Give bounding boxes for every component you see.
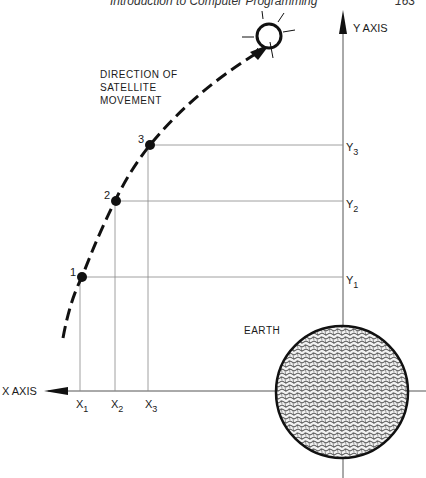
x-axis-label: X AXIS: [2, 385, 37, 397]
svg-text:MOVEMENT: MOVEMENT: [100, 95, 162, 106]
x-tick-labels: X1 X2 X3: [76, 398, 157, 414]
y3-label: Y3: [346, 141, 358, 157]
y1-label: Y1: [346, 274, 358, 290]
x2-label: X2: [111, 398, 123, 414]
point-3-label: 3: [138, 133, 144, 145]
y-tick-labels: Y3 Y2 Y1: [346, 141, 358, 290]
y-axis-arrow-icon: [339, 10, 347, 34]
earth-label: EARTH: [244, 325, 280, 336]
satellite-icon: [242, 11, 295, 58]
orbit-path: [63, 50, 262, 338]
point-2-label: 2: [104, 189, 110, 201]
y-axis-label: Y AXIS: [353, 22, 388, 34]
x1-label: X1: [76, 398, 88, 414]
y2-label: Y2: [346, 198, 358, 214]
svg-text:SATELLITE: SATELLITE: [100, 82, 157, 93]
point-1-label: 1: [70, 266, 76, 278]
satellite-orbit-diagram: Y AXIS X AXIS Y3 Y2 Y1 X1 X2 X3 1 2 3: [0, 0, 426, 478]
x-axis-arrow-icon: [44, 387, 68, 395]
direction-label: DIRECTION OF SATELLITE MOVEMENT: [100, 69, 178, 106]
position-2-dot: [111, 196, 121, 206]
position-3-dot: [145, 140, 155, 150]
position-1-dot: [77, 272, 87, 282]
svg-text:DIRECTION OF: DIRECTION OF: [100, 69, 178, 80]
x3-label: X3: [145, 398, 157, 414]
